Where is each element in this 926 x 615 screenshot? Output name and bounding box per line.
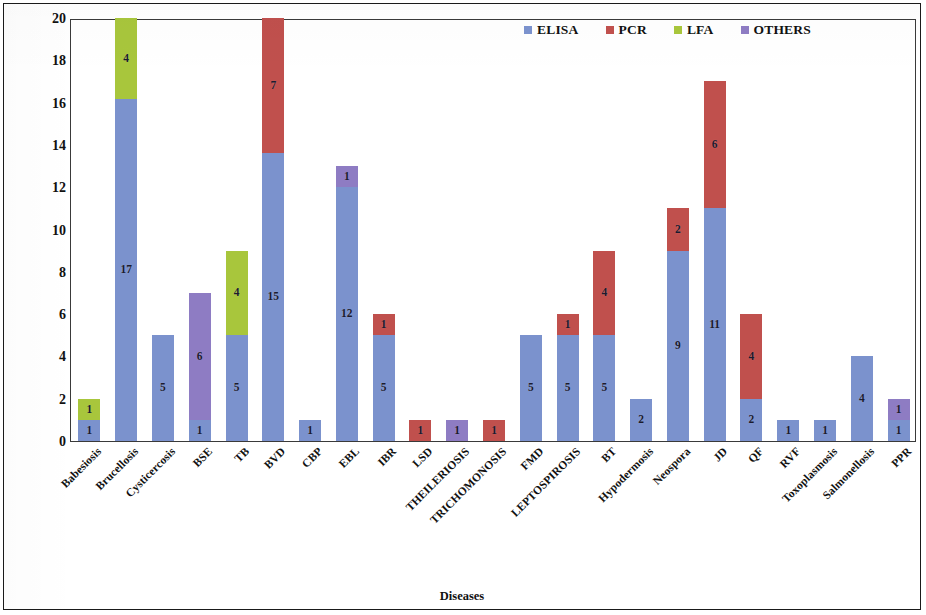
bar-segment-elisa: 2 [740,399,762,441]
bar-segment-elisa: 1 [888,420,910,441]
bar-value-label: 5 [381,382,387,394]
bar-value-label: 5 [565,382,571,394]
x-tick-label: PPR [889,445,914,470]
bar-segment-lfa: 4 [226,251,248,336]
bar-babesiosis[interactable]: 11 [78,399,100,441]
bar-segment-pcr: 4 [593,251,615,336]
legend-item-others: OTHERS [741,22,811,38]
bar-segment-others: 1 [888,399,910,420]
bar-segment-pcr: 1 [483,420,505,441]
legend-swatch-lfa [674,26,682,34]
x-tick-label: FMD [518,445,545,472]
y-tick-label: 0 [36,434,66,450]
bar-segment-lfa: 4 [115,18,137,99]
bar-qf[interactable]: 42 [740,314,762,441]
bar-segment-elisa: 4 [851,356,873,441]
bar-value-label: 1 [87,404,93,416]
bar-value-label: 4 [749,351,755,363]
x-tick-label: THEILERIOSIS [404,445,472,513]
bar-segment-pcr: 1 [409,420,431,441]
bar-segment-pcr: 7 [262,18,284,153]
bar-segment-elisa: 1 [78,420,100,441]
y-tick-label: 4 [36,349,66,365]
bar-segment-pcr: 6 [704,81,726,208]
bar-ebl[interactable]: 112 [336,166,358,441]
bar-value-label: 1 [87,425,93,437]
bar-trichomonosis[interactable]: 1 [483,420,505,441]
bar-segment-others: 1 [446,420,468,441]
figure-frame: No of diagnostic kits 02468101214161820 … [3,3,921,610]
bar-segment-elisa: 1 [777,420,799,441]
bar-segment-elisa: 1 [814,420,836,441]
x-tick-label: LSD [410,445,435,470]
bar-value-label: 2 [675,224,681,236]
bar-rvf[interactable]: 1 [777,420,799,441]
legend-item-elisa: ELISA [524,22,579,38]
legend-swatch-pcr [606,26,614,34]
bar-value-label: 4 [123,53,129,65]
bar-value-label: 17 [120,264,132,276]
bar-value-label: 1 [491,425,497,437]
bar-cysticercosis[interactable]: 5 [152,335,174,441]
x-tick-label: JD [711,445,730,464]
y-axis-ticks: 02468101214161820 [26,19,66,442]
bar-ibr[interactable]: 15 [373,314,395,441]
bar-jd[interactable]: 611 [704,81,726,441]
legend-swatch-others [741,26,749,34]
bar-neospora[interactable]: 29 [667,208,689,441]
bar-ppr[interactable]: 11 [888,399,910,441]
bar-brucellosis[interactable]: 417 [115,18,137,441]
bar-salmonellosis[interactable]: 4 [851,356,873,441]
bar-segment-elisa: 12 [336,187,358,441]
bar-segment-elisa: 17 [115,99,137,441]
bar-fmd[interactable]: 5 [520,335,542,441]
bar-toxoplasmosis[interactable]: 1 [814,420,836,441]
bar-value-label: 11 [709,319,720,331]
bar-segment-elisa: 1 [189,420,211,441]
bar-value-label: 1 [822,425,828,437]
bar-value-label: 5 [601,382,607,394]
legend-item-lfa: LFA [674,22,714,38]
bar-leptospirosis[interactable]: 15 [557,314,579,441]
bar-theileriosis[interactable]: 1 [446,420,468,441]
bar-segment-elisa: 5 [520,335,542,441]
y-tick-label: 12 [36,180,66,196]
bar-value-label: 12 [341,308,353,320]
bar-segment-others: 1 [336,166,358,187]
bar-group: 1141756145715111215111515452296114211411 [71,20,915,441]
bar-hypodermosis[interactable]: 2 [630,399,652,441]
bar-bt[interactable]: 45 [593,251,615,441]
legend-label: ELISA [537,22,579,38]
x-tick-label: TB [232,445,251,464]
x-tick-label: LEPTOSPIROSIS [508,445,582,519]
bar-cbp[interactable]: 1 [299,420,321,441]
bar-value-label: 1 [307,425,313,437]
y-tick-label: 20 [36,11,66,27]
bar-value-label: 9 [675,340,681,352]
bar-bse[interactable]: 61 [189,293,211,441]
x-tick-label: QF [746,445,766,465]
x-tick-label: EBL [336,445,361,470]
x-tick-label: BVD [262,445,288,471]
bar-tb[interactable]: 45 [226,251,248,441]
bar-value-label: 1 [785,425,791,437]
bar-value-label: 4 [234,287,240,299]
legend-label: OTHERS [754,22,811,38]
bar-bvd[interactable]: 715 [262,18,284,441]
y-tick-label: 18 [36,53,66,69]
bar-value-label: 5 [234,382,240,394]
x-tick-label: BT [599,445,618,464]
bar-value-label: 15 [268,291,280,303]
bar-segment-pcr: 1 [373,314,395,335]
y-tick-label: 8 [36,265,66,281]
bar-lsd[interactable]: 1 [409,420,431,441]
x-tick-label: CBP [300,445,325,470]
legend-label: PCR [619,22,647,38]
bar-value-label: 4 [601,287,607,299]
bar-segment-elisa: 9 [667,251,689,441]
legend-label: LFA [687,22,714,38]
bar-value-label: 1 [896,404,902,416]
bar-value-label: 7 [270,80,276,92]
x-tick-label: RVF [778,445,803,470]
bar-segment-elisa: 5 [373,335,395,441]
